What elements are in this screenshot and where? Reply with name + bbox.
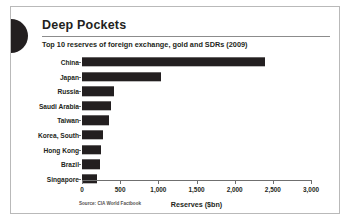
bar: [82, 116, 109, 125]
x-axis-tickmark: [235, 180, 236, 184]
bar: [82, 159, 100, 168]
x-axis-title: Reserves ($bn): [171, 200, 223, 209]
category-tickmark: [78, 77, 81, 78]
category-label: Brazil: [17, 161, 79, 168]
bar: [82, 174, 97, 183]
bar: [82, 101, 111, 110]
category-tickmark: [78, 164, 81, 165]
category-label: China: [17, 59, 79, 66]
x-axis-tick-label: 500: [115, 186, 126, 193]
category-tickmark: [78, 120, 81, 121]
x-axis-tickmark: [311, 180, 312, 184]
category-tickmark: [78, 91, 81, 92]
x-axis-tick-label: 1,000: [150, 186, 166, 193]
bar: [82, 57, 265, 66]
x-axis-tickmark: [273, 180, 274, 184]
x-axis-tickmark: [158, 180, 159, 184]
bar: [82, 145, 101, 154]
x-axis-tick-label: 3,000: [303, 186, 319, 193]
bar: [82, 130, 103, 139]
x-axis-tickmark: [197, 180, 198, 184]
category-label: Saudi Arabia: [17, 102, 79, 109]
x-axis-tickmark: [120, 180, 121, 184]
category-label: Japan: [17, 73, 79, 80]
x-axis-tick-label: 0: [80, 186, 84, 193]
bar: [82, 86, 114, 95]
source-note: Source: CIA World Factbook: [79, 201, 141, 206]
x-axis-tick-label: 2,500: [265, 186, 281, 193]
category-tickmark: [78, 106, 81, 107]
category-label: Taiwan: [17, 117, 79, 124]
category-tickmark: [78, 135, 81, 136]
chart-card: Deep Pockets Top 10 reserves of foreign …: [10, 6, 340, 214]
category-axis-labels: ChinaJapanRussiaSaudi ArabiaTaiwanKorea,…: [17, 7, 79, 215]
category-tickmark: [78, 62, 81, 63]
category-tickmark: [78, 179, 81, 180]
category-label: Singapore: [17, 175, 79, 182]
category-tickmark: [78, 150, 81, 151]
bar: [82, 72, 161, 81]
bar-chart-plot: ChinaJapanRussiaSaudi ArabiaTaiwanKorea,…: [11, 7, 341, 215]
category-label: Hong Kong: [17, 146, 79, 153]
x-axis-tickmark: [82, 180, 83, 184]
x-axis-tick-label: 1,500: [189, 186, 205, 193]
x-axis-tick-label: 2,000: [227, 186, 243, 193]
category-label: Korea, South: [17, 132, 79, 139]
category-label: Russia: [17, 88, 79, 95]
